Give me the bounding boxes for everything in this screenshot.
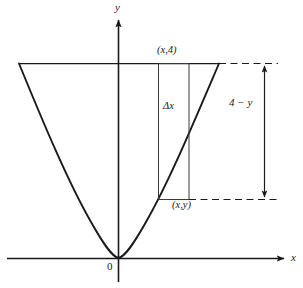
strip-width-label: Δx — [163, 101, 174, 112]
x-axis-label: x — [291, 252, 296, 263]
figure-canvas — [0, 0, 303, 288]
lower-point-label: (x,y) — [172, 200, 191, 211]
y-axis-label: y — [115, 2, 120, 13]
strip-height-label: 4 − y — [229, 97, 252, 108]
origin-label: 0 — [107, 261, 113, 272]
upper-point-label: (x,4) — [157, 45, 177, 56]
parabola-figure: y x 0 (x,4) (x,y) Δx 4 − y — [0, 0, 303, 288]
riemann-strip — [159, 64, 190, 200]
